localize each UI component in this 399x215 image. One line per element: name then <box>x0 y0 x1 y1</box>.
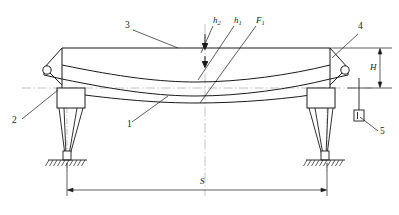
left-column-inner-right <box>69 108 77 155</box>
left-ground <box>46 160 88 166</box>
h2-label: h2 <box>213 16 221 25</box>
H-arrow-bottom <box>378 82 382 88</box>
leader-h2 <box>201 26 213 53</box>
callout-label-1: 1 <box>127 120 132 130</box>
left-column-outer-right <box>70 108 83 155</box>
bottom-chord-curve <box>62 92 330 103</box>
left-pin-circle <box>43 66 51 74</box>
callout-label-2: 2 <box>12 116 17 126</box>
right-bearing-block <box>307 88 335 108</box>
left-bearing-block <box>57 88 85 108</box>
side-block-group <box>354 78 364 121</box>
leader-5 <box>360 117 378 131</box>
right-column <box>309 108 333 160</box>
span-dimension-group <box>67 163 327 196</box>
leader-4 <box>332 34 358 58</box>
right-ground <box>304 160 346 166</box>
leader-2 <box>22 90 58 119</box>
h1-label: h1 <box>234 16 242 25</box>
inner-curve-upper <box>62 65 330 82</box>
H-arrow-top <box>378 49 382 55</box>
leader-3 <box>133 30 178 48</box>
H-label: H <box>370 63 377 72</box>
height-dimension-group <box>330 48 392 88</box>
right-pin-circle <box>341 66 349 74</box>
centerlines <box>22 24 372 196</box>
leader-h1 <box>198 26 234 80</box>
right-column-outer-left <box>309 108 322 155</box>
left-bearing-group <box>43 66 85 108</box>
leader-1 <box>132 96 168 122</box>
callout-label-4: 4 <box>358 22 363 32</box>
left-column <box>59 108 83 160</box>
right-column-inner-left <box>315 108 323 155</box>
right-column-base-block <box>321 151 329 160</box>
S-label: S <box>200 177 205 186</box>
F1-label: F1 <box>256 16 265 25</box>
right-bearing-group <box>307 66 349 108</box>
left-column-base-block <box>63 151 71 160</box>
S-arrow-right <box>321 188 327 192</box>
S-arrow-left <box>68 188 74 192</box>
callout-label-3: 3 <box>125 21 130 31</box>
beam-body <box>44 48 348 103</box>
callout-label-5: 5 <box>380 127 385 137</box>
